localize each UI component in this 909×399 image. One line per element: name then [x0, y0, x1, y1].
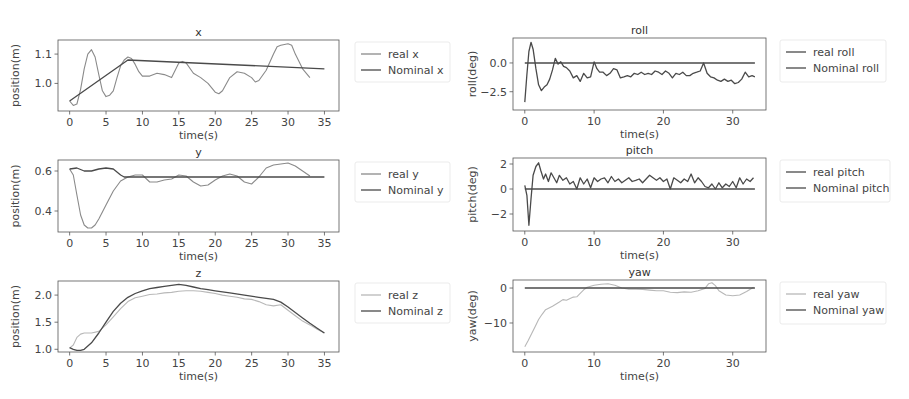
legend: real rollNominal roll [780, 40, 886, 82]
y-tick-label: 0 [500, 282, 507, 295]
x-tick-label: 0 [66, 116, 73, 129]
x-axis-label: time(s) [179, 370, 218, 383]
legend-label: real roll [813, 46, 854, 59]
y-tick-label: 1.1 [35, 48, 53, 61]
x-axis-label: time(s) [179, 129, 218, 142]
y-tick-label: 0.4 [35, 205, 53, 218]
series-line-nominal-x [70, 60, 325, 101]
x-tick-label: 20 [208, 357, 222, 370]
y-axis-label: position(m) [9, 165, 22, 228]
x-tick-label: 30 [281, 237, 295, 250]
x-axis-label: time(s) [179, 250, 218, 263]
x-tick-label: 10 [135, 357, 149, 370]
chart-title: pitch [626, 144, 653, 157]
chart-title: z [196, 267, 202, 280]
y-axis-label: position(m) [9, 44, 22, 107]
x-tick-label: 25 [245, 237, 259, 250]
x-tick-label: 0 [66, 357, 73, 370]
subplot-x: x051015202530351.01.1time(s)position(m)r… [9, 26, 450, 142]
x-tick-label: 30 [281, 116, 295, 129]
legend: real pitchNominal pitch [780, 160, 890, 202]
subplot-pitch: pitch010203020−2time(s)pitch(deg)real pi… [466, 144, 890, 262]
legend: real yNominal y [355, 162, 450, 202]
x-tick-label: 5 [103, 357, 110, 370]
figure-canvas: x051015202530351.01.1time(s)position(m)r… [0, 0, 909, 399]
chart-title: roll [631, 24, 648, 37]
axes-frame [58, 40, 339, 111]
series-line-real-pitch [525, 163, 754, 226]
x-tick-label: 20 [208, 116, 222, 129]
x-tick-label: 10 [587, 236, 601, 249]
x-tick-label: 35 [317, 357, 331, 370]
series-line-nominal-y [70, 168, 325, 177]
subplot-y: y051015202530350.40.6time(s)position(m)r… [9, 146, 450, 263]
legend-label: real yaw [813, 288, 860, 301]
x-tick-label: 35 [317, 116, 331, 129]
legend-label: real y [388, 168, 419, 181]
series-line-nominal-z [70, 284, 325, 350]
y-tick-label: 2.0 [35, 289, 53, 302]
x-tick-label: 5 [103, 237, 110, 250]
y-axis-label: roll(deg) [466, 51, 479, 97]
chart-title: yaw [628, 266, 650, 279]
x-tick-label: 30 [726, 357, 740, 370]
axes-frame [58, 160, 339, 232]
x-tick-label: 25 [245, 116, 259, 129]
y-tick-label: 0 [500, 183, 507, 196]
x-tick-label: 15 [172, 237, 186, 250]
x-tick-label: 20 [656, 115, 670, 128]
series-line-real-y [70, 163, 310, 228]
series-line-real-yaw [525, 283, 754, 347]
chart-title: y [195, 146, 202, 159]
legend-label: Nominal roll [813, 62, 879, 75]
legend: real xNominal x [355, 42, 450, 82]
chart-title: x [195, 26, 202, 39]
x-tick-label: 10 [587, 357, 601, 370]
y-tick-label: 0.6 [35, 165, 53, 178]
legend-label: real pitch [813, 166, 865, 179]
x-tick-label: 20 [656, 357, 670, 370]
x-tick-label: 30 [281, 357, 295, 370]
x-axis-label: time(s) [620, 370, 659, 383]
series-line-real-x [70, 44, 310, 106]
legend: real yawNominal yaw [780, 282, 886, 324]
y-tick-label: −2.5 [480, 86, 507, 99]
x-tick-label: 0 [66, 237, 73, 250]
x-tick-label: 30 [726, 115, 740, 128]
legend-label: Nominal y [388, 184, 444, 197]
x-axis-label: time(s) [620, 128, 659, 141]
x-tick-label: 15 [172, 116, 186, 129]
x-tick-label: 20 [656, 236, 670, 249]
subplot-z: z051015202530351.01.52.0time(s)position(… [9, 267, 450, 383]
legend-label: Nominal x [388, 64, 444, 77]
x-tick-label: 10 [135, 237, 149, 250]
x-tick-label: 10 [135, 116, 149, 129]
x-tick-label: 25 [245, 357, 259, 370]
x-axis-label: time(s) [620, 249, 659, 262]
legend: real zNominal z [355, 283, 450, 323]
legend-label: Nominal z [388, 305, 443, 318]
y-tick-label: 1.0 [35, 343, 53, 356]
x-tick-label: 0 [521, 236, 528, 249]
legend-label: Nominal pitch [813, 182, 889, 195]
axes-frame [513, 158, 766, 231]
y-axis-label: pitch(deg) [466, 166, 479, 223]
x-tick-label: 5 [103, 116, 110, 129]
subplot-roll: roll01020300.0−2.5time(s)roll(deg)real r… [466, 24, 886, 141]
x-tick-label: 15 [172, 357, 186, 370]
legend-label: real x [388, 48, 419, 61]
legend-label: Nominal yaw [813, 304, 884, 317]
y-tick-label: 1.5 [35, 316, 53, 329]
y-axis-label: yaw(deg) [466, 290, 479, 342]
x-tick-label: 20 [208, 237, 222, 250]
x-tick-label: 10 [587, 115, 601, 128]
x-tick-label: 0 [521, 115, 528, 128]
series-line-real-roll [525, 42, 755, 102]
x-tick-label: 30 [726, 236, 740, 249]
y-tick-label: −2 [491, 208, 507, 221]
y-tick-label: −10 [484, 317, 507, 330]
x-tick-label: 35 [317, 237, 331, 250]
legend-label: real z [388, 289, 418, 302]
axes-frame [513, 280, 766, 352]
y-tick-label: 0.0 [490, 57, 508, 70]
